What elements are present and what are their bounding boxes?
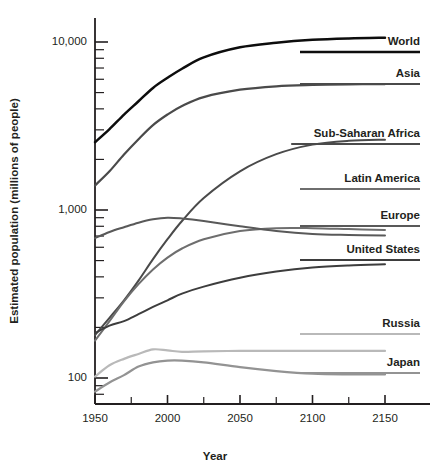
y-tick-label: 10,000	[52, 35, 87, 47]
x-tick-label: 2050	[227, 412, 253, 424]
y-tick-label: 1,000	[58, 203, 87, 215]
series-line-united-states	[95, 264, 385, 333]
series-label-asia: Asia	[396, 67, 421, 79]
y-axis-minor-ticks	[95, 50, 104, 404]
series-label-sub-saharan-africa: Sub-Saharan Africa	[314, 127, 421, 139]
series-label-russia: Russia	[382, 317, 420, 329]
y-axis-title: Estimated population (millions of people…	[8, 98, 20, 324]
x-tick-label: 2100	[300, 412, 326, 424]
series-label-latin-america: Latin America	[344, 172, 420, 184]
y-tick-label: 100	[68, 371, 87, 383]
series-label-world: World	[388, 35, 420, 47]
y-axis-tick-labels: 1001,00010,000	[52, 35, 87, 383]
x-axis-tick-labels: 19502000205021002150	[82, 412, 398, 424]
series-line-sub-saharan-africa	[95, 140, 385, 335]
population-projection-chart: 1001,00010,000 19502000205021002150 Worl…	[0, 0, 430, 476]
series-line-japan	[95, 360, 385, 391]
x-axis-title: Year	[203, 450, 228, 462]
series-label-europe: Europe	[380, 209, 420, 221]
series-label-japan: Japan	[387, 356, 420, 368]
x-tick-label: 2150	[372, 412, 398, 424]
series-lines-group	[95, 38, 385, 392]
chart-canvas: 1001,00010,000 19502000205021002150 Worl…	[0, 0, 430, 476]
x-tick-label: 1950	[82, 412, 108, 424]
x-tick-label: 2000	[155, 412, 181, 424]
x-axis-major-ticks	[95, 395, 385, 404]
series-line-latin-america	[95, 228, 385, 341]
series-label-united-states: United States	[347, 243, 421, 255]
